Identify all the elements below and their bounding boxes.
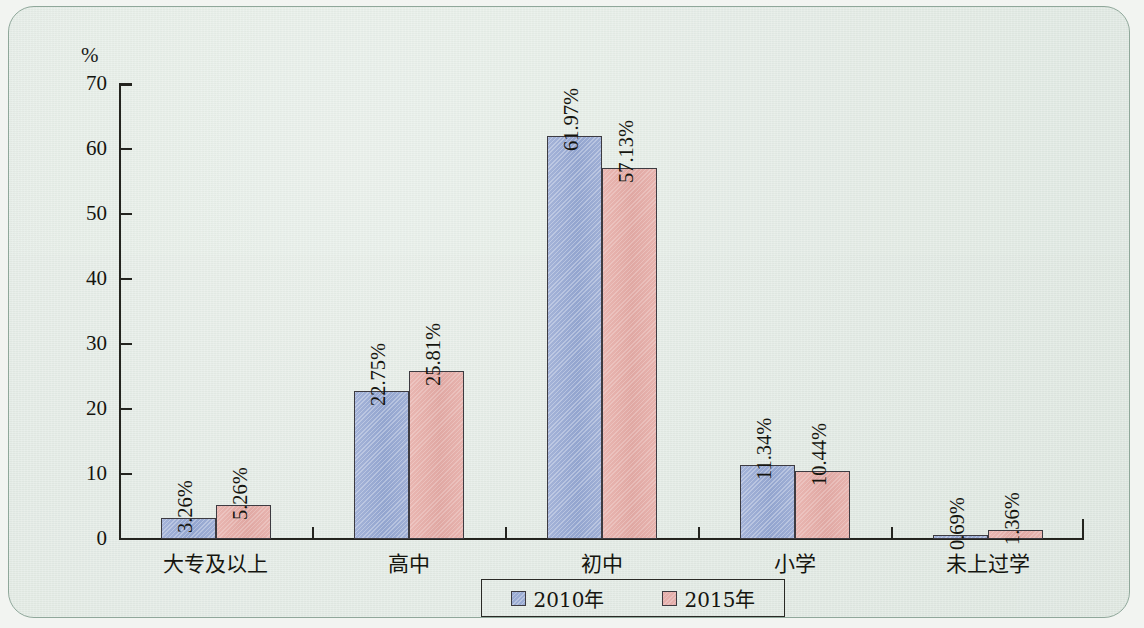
y-tick-label-40: 40 — [61, 268, 107, 289]
value-label-2010年-初中: 61.97% — [560, 88, 583, 151]
y-tick-label-0: 0 — [61, 528, 107, 549]
legend-item-2010: 2010年 — [511, 584, 605, 613]
value-label-2010年-高中: 22.75% — [367, 343, 390, 406]
value-label-2015年-初中: 57.13% — [615, 119, 638, 182]
category-label-小学: 小学 — [698, 547, 891, 577]
chart-legend: 2010年 2015年 — [481, 579, 785, 617]
bar-2010年-初中 — [547, 136, 602, 539]
bar-2015年-初中 — [602, 168, 657, 539]
y-tick-label-30: 30 — [61, 333, 107, 354]
bar-2015年-高中 — [409, 371, 464, 539]
y-tick-label-50: 50 — [61, 203, 107, 224]
category-label-高中: 高中 — [312, 547, 505, 577]
value-label-2015年-高中: 25.81% — [422, 323, 445, 386]
category-label-未上过学: 未上过学 — [891, 547, 1084, 577]
value-label-2015年-未上过学: 1.36% — [1001, 492, 1024, 545]
chart-frame: % 010203040506070 3.26%5.26%22.75%25.81%… — [8, 6, 1130, 618]
category-label-大专及以上: 大专及以上 — [119, 547, 312, 577]
scanned-page: % 010203040506070 3.26%5.26%22.75%25.81%… — [0, 0, 1144, 628]
legend-swatch-2010-icon — [511, 591, 526, 606]
y-tick-label-20: 20 — [61, 398, 107, 419]
value-label-2015年-大专及以上: 5.26% — [229, 467, 252, 520]
legend-label-2010: 2010年 — [534, 584, 605, 613]
legend-item-2015: 2015年 — [662, 584, 756, 613]
y-axis-unit-label: % — [81, 43, 99, 68]
value-label-2010年-小学: 11.34% — [753, 418, 776, 480]
y-tick-label-60: 60 — [61, 138, 107, 159]
bar-2010年-高中 — [354, 391, 409, 539]
category-label-初中: 初中 — [505, 547, 698, 577]
bars-layer — [119, 84, 1084, 539]
y-tick-label-70: 70 — [61, 73, 107, 94]
y-tick-label-10: 10 — [61, 463, 107, 484]
chart-plot-area: % 010203040506070 3.26%5.26%22.75%25.81%… — [9, 7, 1130, 618]
value-label-2015年-小学: 10.44% — [808, 423, 831, 486]
legend-label-2015: 2015年 — [685, 584, 756, 613]
value-label-2010年-大专及以上: 3.26% — [174, 480, 197, 533]
value-label-2010年-未上过学: 0.69% — [946, 497, 969, 550]
legend-swatch-2015-icon — [662, 591, 677, 606]
